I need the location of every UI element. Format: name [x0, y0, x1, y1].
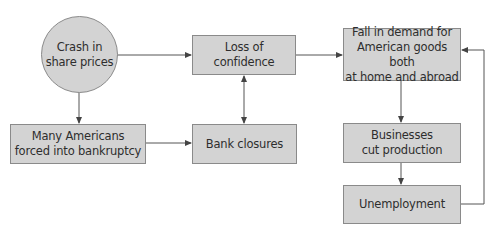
- node-businesses-cut-production: Businesses cut production: [343, 123, 461, 163]
- node-loss-of-confidence: Loss of confidence: [192, 35, 296, 75]
- node-label: Many Americans forced into bankruptcy: [15, 129, 141, 159]
- node-label: Fall in demand for American goods both a…: [344, 25, 460, 85]
- edge-unemployment-demand: [461, 50, 484, 204]
- node-crash-in-share-prices: Crash in share prices: [41, 16, 118, 93]
- node-bank-closures: Bank closures: [192, 124, 297, 164]
- node-fall-in-demand: Fall in demand for American goods both a…: [343, 28, 461, 81]
- node-bankruptcy: Many Americans forced into bankruptcy: [10, 124, 146, 164]
- node-label: Loss of confidence: [193, 40, 295, 70]
- node-unemployment: Unemployment: [343, 185, 461, 224]
- node-label: Unemployment: [359, 197, 445, 212]
- node-label: Businesses cut production: [362, 128, 443, 158]
- node-label: Bank closures: [206, 137, 283, 152]
- node-label: Crash in share prices: [46, 40, 114, 70]
